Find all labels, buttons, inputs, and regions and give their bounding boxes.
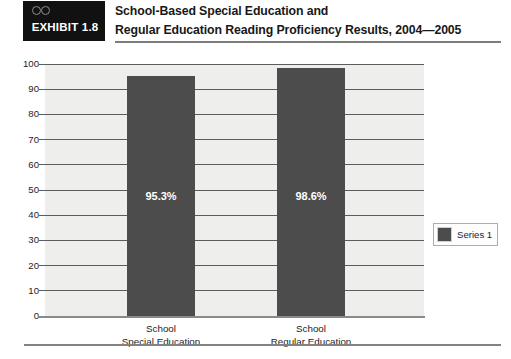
exhibit-title: School-Based Special Education and Regul… [115, 2, 505, 39]
exhibit-title-line-1: School-Based Special Education and [115, 2, 505, 21]
gridline [45, 89, 424, 90]
spectacles-right-lens [41, 6, 50, 15]
exhibit-header: EXHIBIT 1.8 School-Based Special Educati… [0, 0, 511, 46]
gridline [45, 265, 424, 266]
gridline [45, 215, 424, 216]
y-axis-tick [39, 114, 45, 115]
y-axis-tick [39, 64, 45, 65]
exhibit-tag: EXHIBIT 1.8 [23, 1, 105, 41]
header-divider [115, 41, 501, 43]
y-axis-tick [39, 190, 45, 191]
y-axis-tick-label: 30 [7, 235, 39, 245]
x-axis-category-label-1-line-1: School [86, 323, 236, 336]
legend-label-series-1: Series 1 [457, 229, 492, 240]
y-axis-tick-label: 50 [7, 185, 39, 195]
gridline [45, 190, 424, 191]
y-axis-tick [39, 164, 45, 165]
y-axis-tick [39, 139, 45, 140]
y-axis-tick-label: 70 [7, 135, 39, 145]
gridline [45, 64, 424, 65]
y-axis-tick [39, 89, 45, 90]
y-axis-tick-labels: 1009080706050403020100 [0, 64, 39, 316]
footer-divider [24, 344, 501, 346]
exhibit-title-line-2: Regular Education Reading Proficiency Re… [115, 21, 505, 40]
gridline [45, 240, 424, 241]
gridline [45, 164, 424, 165]
gridline [45, 114, 424, 115]
gridline [45, 139, 424, 140]
exhibit-number-label: EXHIBIT 1.8 [29, 20, 101, 34]
y-axis-tick-label: 40 [7, 210, 39, 220]
legend-swatch-series-1 [437, 227, 452, 242]
chart-legend: Series 1 [433, 223, 498, 246]
y-axis-tick-label: 10 [7, 286, 39, 296]
y-axis-tick [39, 215, 45, 216]
y-axis-tick [39, 240, 45, 241]
spectacles-icon [32, 6, 58, 16]
y-axis-tick-label: 60 [7, 160, 39, 170]
y-axis-tick-label: 0 [7, 311, 39, 321]
y-axis-tick-label: 80 [7, 109, 39, 119]
x-axis-category-label-2-line-2: Regular Education [236, 336, 386, 349]
x-axis-category-label-2-line-1: School [236, 323, 386, 336]
y-axis-tick [39, 290, 45, 291]
y-axis-tick-label: 100 [7, 59, 39, 69]
x-axis-category-label-1-line-2: Special Education [86, 336, 236, 349]
bar-value-label-1: 95.3% [121, 190, 201, 202]
y-axis-tick-label: 20 [7, 261, 39, 271]
x-axis-line [38, 316, 425, 318]
gridline [45, 290, 424, 291]
y-axis-tick [39, 265, 45, 266]
spectacles-left-lens [32, 6, 41, 15]
y-axis-tick-label: 90 [7, 84, 39, 94]
bar-chart: 1009080706050403020100 Series 1 95.3%Sch… [0, 46, 511, 314]
plot-area [45, 64, 424, 316]
bar-value-label-2: 98.6% [271, 190, 351, 202]
